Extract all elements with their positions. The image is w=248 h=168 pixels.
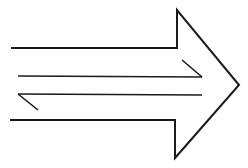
- lower-half-arrow-shaft: [18, 94, 202, 95]
- outer-arrow-outline: [10, 10, 239, 158]
- arrow-diagram-svg: [0, 0, 248, 168]
- upper-half-arrow: [18, 60, 202, 77]
- arrow-diagram: [0, 0, 248, 168]
- lower-half-arrow-barb: [18, 94, 38, 110]
- lower-half-arrow: [18, 94, 202, 110]
- upper-half-arrow-shaft: [18, 76, 202, 77]
- upper-half-arrow-barb: [182, 60, 202, 77]
